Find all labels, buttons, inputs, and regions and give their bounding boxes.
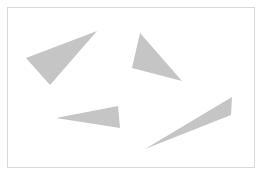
canvas-background (0, 0, 262, 175)
figure-canvas (0, 0, 262, 175)
figure-svg (0, 0, 262, 175)
